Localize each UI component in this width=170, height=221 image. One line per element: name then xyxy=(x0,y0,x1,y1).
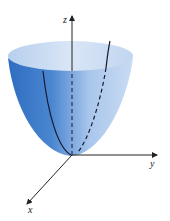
y-axis-label: y xyxy=(149,158,155,169)
paraboloid-surface xyxy=(8,58,133,156)
paraboloid-rim xyxy=(8,41,133,71)
z-axis-label: z xyxy=(62,14,67,25)
paraboloid-diagram: z y x xyxy=(0,0,170,221)
x-axis xyxy=(27,155,72,204)
x-axis-label: x xyxy=(27,204,33,215)
